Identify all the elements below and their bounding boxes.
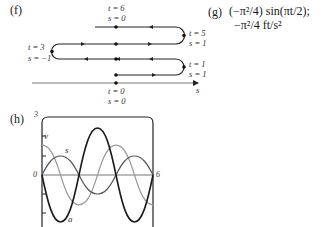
motion-path: [52, 27, 185, 75]
part-g-expression: (−π²/4) sin(πt/2);: [229, 5, 310, 17]
y-top-label: 3: [34, 111, 38, 119]
label-t0: t = 0: [108, 87, 125, 96]
s-curve-label: s: [65, 146, 69, 155]
part-h-label: (h): [10, 113, 24, 125]
motion-diagram: [0, 0, 321, 227]
label-s1-lower: s = 1: [189, 70, 207, 79]
label-s0-bottom: s = 0: [108, 97, 126, 106]
origin-label: 0: [33, 171, 37, 179]
a-curve-label: a: [68, 215, 73, 224]
label-s1-upper: s = 1: [189, 39, 207, 48]
label-t1: t = 1: [189, 60, 206, 69]
label-t5: t = 5: [189, 29, 206, 38]
graph-frame: [42, 117, 153, 227]
graph-h: [42, 117, 153, 227]
x-right-label: 6: [156, 171, 160, 179]
label-s0-top: s = 0: [108, 14, 126, 23]
part-g-label: (g): [208, 6, 222, 18]
v-curve-label: v: [44, 132, 48, 141]
label-t3: t = 3: [28, 43, 45, 52]
part-g-value: −π²/4 ft/s²: [234, 19, 282, 31]
label-t6: t = 6: [108, 4, 125, 13]
position-dots: [50, 25, 186, 85]
label-s-neg1: s = −1: [28, 54, 51, 63]
direction-arrows: [81, 25, 156, 77]
s-axis-label: s: [196, 86, 199, 95]
